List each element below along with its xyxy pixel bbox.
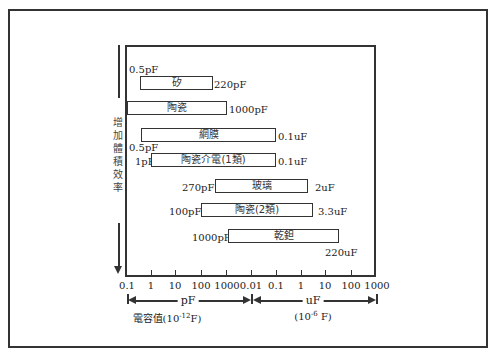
pf-unit-label: pF xyxy=(178,294,199,307)
x-tick xyxy=(251,270,252,276)
x-tick-label: 10 xyxy=(319,280,332,291)
bar-max-label: 3.3uF xyxy=(318,206,347,217)
bar-ceramic-class2: 陶瓷(2類) xyxy=(201,203,313,217)
down-arrow-icon xyxy=(114,266,122,274)
uf-caption-text: (10 xyxy=(294,311,311,322)
uf-range-end-mark xyxy=(376,294,378,304)
bar-min-label: 1000pF xyxy=(192,232,231,243)
pf-caption-exponent: -12 xyxy=(179,312,190,320)
pf-caption-suffix: F) xyxy=(191,313,202,324)
uf-caption-suffix: F) xyxy=(318,311,332,322)
pf-caption-text: 電容值(10 xyxy=(133,313,180,324)
right-arrow-icon xyxy=(243,296,251,304)
x-tick xyxy=(276,270,277,276)
bar-min-label: 0.5pF xyxy=(129,142,158,153)
y-axis-line-bottom xyxy=(118,223,120,268)
x-tick xyxy=(175,270,176,276)
x-tick-label: 1000 xyxy=(214,280,239,291)
bar-min-label: 100pF xyxy=(169,206,201,217)
bar-ceramic: 陶瓷 xyxy=(127,101,227,115)
x-tick-label: 0.01 xyxy=(240,280,262,291)
bar-max-label: 2uF xyxy=(315,182,335,193)
bar-silicon: 矽 xyxy=(140,76,213,90)
bar-max-label: 0.1uF xyxy=(278,131,307,142)
x-tick xyxy=(325,270,326,276)
uf-unit-label: uF xyxy=(303,294,324,307)
x-tick xyxy=(226,270,227,276)
uf-caption: (10-6 F) xyxy=(294,310,332,322)
bar-film: 網膜 xyxy=(141,128,276,142)
bar-ceramic-class1: 陶瓷介電(1類) xyxy=(151,153,276,167)
bar-max-label: 0.1uF xyxy=(278,156,307,167)
x-tick-label: 0.1 xyxy=(119,280,135,291)
x-tick xyxy=(301,270,302,276)
x-tick-label: 0.1 xyxy=(268,280,284,291)
bar-max-label: 220uF xyxy=(325,247,357,258)
x-tick xyxy=(351,270,352,276)
bar-max-label: 1000pF xyxy=(229,104,268,115)
bar-tantalum: 乾鉭 xyxy=(228,229,339,243)
x-tick xyxy=(201,270,202,276)
bar-max-label: 220pF xyxy=(214,79,246,90)
x-tick-label: 100 xyxy=(341,280,360,291)
y-axis-line-top xyxy=(118,45,120,98)
right-arrow-icon xyxy=(368,296,376,304)
x-tick-label: 100 xyxy=(191,280,210,291)
x-tick xyxy=(151,270,152,276)
pf-caption: 電容值(10-12F) xyxy=(133,310,202,325)
x-tick-label: 1000 xyxy=(364,280,389,291)
bar-glass: 玻璃 xyxy=(215,179,308,193)
y-axis-label: 增加體積效率 xyxy=(112,116,124,194)
x-tick-label: 1 xyxy=(148,280,154,291)
bar-min-label: 0.5pF xyxy=(129,64,158,75)
x-tick-label: 10 xyxy=(169,280,182,291)
x-tick-label: 1 xyxy=(298,280,304,291)
bar-min-label: 270pF xyxy=(182,182,214,193)
